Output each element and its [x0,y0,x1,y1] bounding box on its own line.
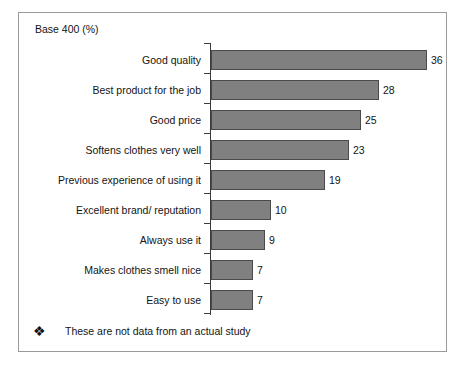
category-label: Previous experience of using it [58,174,201,186]
bar-row: Excellent brand/ reputation10 [19,195,448,225]
bar-row: Good price25 [19,105,448,135]
category-label: Makes clothes smell nice [84,264,201,276]
bar [211,50,427,70]
bar-row: Easy to use7 [19,285,448,315]
bar-value-label: 28 [383,84,395,96]
bar [211,200,271,220]
category-label: Best product for the job [92,84,201,96]
slide-frame: Base 400 (%) Good quality36Best product … [18,12,447,352]
category-label: Always use it [140,234,201,246]
bar [211,230,265,250]
bar-value-label: 9 [269,234,275,246]
bar-row: Previous experience of using it19 [19,165,448,195]
bar [211,140,349,160]
bar-value-label: 7 [257,264,263,276]
bar-value-label: 36 [431,54,443,66]
bar [211,260,253,280]
bar-value-label: 19 [329,174,341,186]
bar-row: Softens clothes very well23 [19,135,448,165]
bar-value-label: 10 [275,204,287,216]
category-label: Easy to use [146,294,201,306]
footnote: ❖ These are not data from an actual stud… [19,323,448,347]
bar [211,80,379,100]
diamond-bullet-icon: ❖ [33,324,46,338]
category-label: Good price [150,114,201,126]
bar-value-label: 7 [257,294,263,306]
category-label: Good quality [142,54,201,66]
footnote-text: These are not data from an actual study [65,325,251,337]
category-label: Softens clothes very well [85,144,201,156]
bar-row: Good quality36 [19,45,448,75]
bar [211,290,253,310]
bar-row: Always use it9 [19,225,448,255]
axis-tick [204,43,210,44]
bar-value-label: 25 [365,114,377,126]
bar-row: Best product for the job28 [19,75,448,105]
bar [211,170,325,190]
base-label: Base 400 (%) [35,23,99,35]
bar [211,110,361,130]
horizontal-bar-chart: Good quality36Best product for the job28… [19,43,448,318]
bar-value-label: 23 [353,144,365,156]
bar-row: Makes clothes smell nice7 [19,255,448,285]
category-label: Excellent brand/ reputation [76,204,201,216]
